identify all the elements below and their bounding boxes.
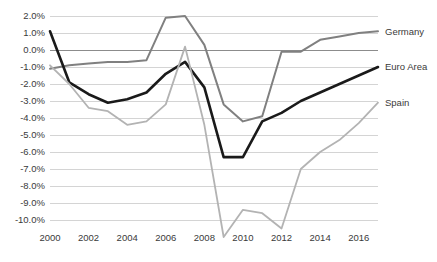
y-tick-label: 2.0% [23, 10, 45, 21]
line-chart: 2.0%1.0%0.0%-1.0%-2.0%-3.0%-4.0%-5.0%-6.… [0, 0, 437, 262]
series-lines-group [50, 16, 378, 237]
series-labels-group: GermanyEuro AreaSpain [385, 26, 428, 108]
x-tick-label: 2012 [271, 232, 292, 243]
series-label-germany: Germany [385, 26, 424, 37]
y-tick-label: -3.0% [20, 95, 45, 106]
y-tick-label: -2.0% [20, 78, 45, 89]
series-label-spain: Spain [385, 97, 409, 108]
series-label-euro-area: Euro Area [385, 61, 428, 72]
x-tick-label: 2002 [78, 232, 99, 243]
y-tick-label: -1.0% [20, 61, 45, 72]
x-tick-label: 2014 [310, 232, 331, 243]
x-tick-label: 2008 [194, 232, 215, 243]
x-tick-label: 2006 [155, 232, 176, 243]
y-tick-label: 1.0% [23, 27, 45, 38]
x-tick-label: 2004 [117, 232, 138, 243]
chart-canvas: 2.0%1.0%0.0%-1.0%-2.0%-3.0%-4.0%-5.0%-6.… [0, 0, 437, 262]
x-tick-label: 2010 [232, 232, 253, 243]
x-tick-labels-group: 200020022004200620082010201220142016 [39, 232, 369, 243]
y-tick-label: -4.0% [20, 112, 45, 123]
series-line-germany [50, 16, 378, 121]
y-tick-label: 0.0% [23, 44, 45, 55]
y-tick-label: -10.0% [15, 214, 46, 225]
y-tick-label: -6.0% [20, 146, 45, 157]
y-tick-labels-group: 2.0%1.0%0.0%-1.0%-2.0%-3.0%-4.0%-5.0%-6.… [15, 10, 46, 225]
y-tick-label: -5.0% [20, 129, 45, 140]
y-tick-label: -9.0% [20, 197, 45, 208]
x-tick-label: 2000 [39, 232, 60, 243]
y-tick-label: -7.0% [20, 163, 45, 174]
x-tick-label: 2016 [348, 232, 369, 243]
y-tick-label: -8.0% [20, 180, 45, 191]
